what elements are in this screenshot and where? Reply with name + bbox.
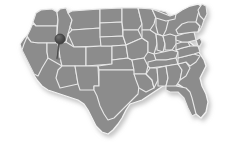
state-ohio[interactable] — [163, 34, 176, 50]
state-washington[interactable] — [33, 9, 58, 26]
state-montana[interactable] — [68, 9, 100, 30]
state-south-dakota[interactable] — [100, 22, 123, 37]
state-arizona[interactable] — [56, 66, 78, 88]
state-wyoming[interactable] — [68, 28, 101, 47]
state-colorado[interactable] — [86, 46, 112, 66]
state-mid-atlantic-sliver[interactable] — [196, 38, 202, 46]
state-north-dakota[interactable] — [100, 8, 122, 23]
pin-head-highlight-icon — [57, 36, 60, 39]
us-landmass-group — [20, 4, 208, 134]
state-arkansas[interactable] — [132, 58, 148, 74]
us-map-canvas[interactable] — [0, 0, 226, 145]
pin-head-circle[interactable] — [55, 34, 65, 44]
state-nebraska[interactable] — [100, 36, 126, 46]
state-oregon[interactable] — [27, 23, 57, 43]
pin-shadow-ellipse — [56, 58, 61, 60]
us-map-figure — [0, 0, 226, 145]
